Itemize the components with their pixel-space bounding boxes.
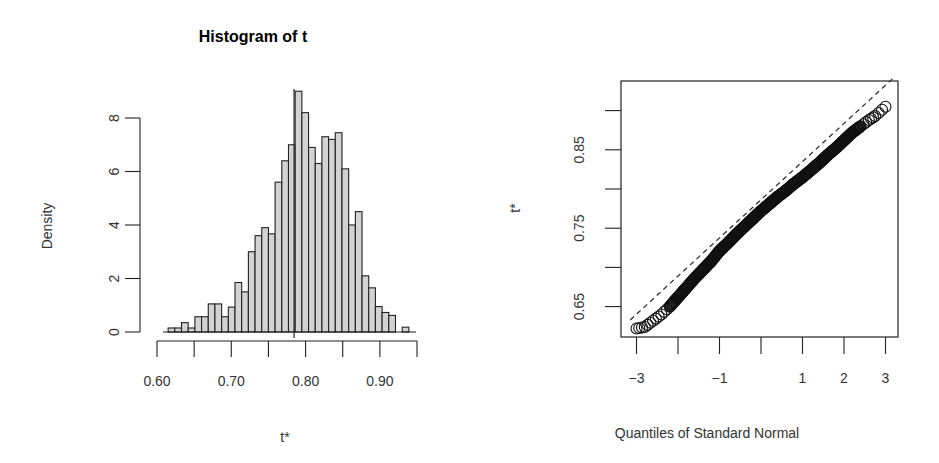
histogram-bar — [188, 328, 195, 332]
histogram-bar — [222, 317, 229, 332]
histogram-bar — [195, 317, 202, 332]
y-axis-label: Density — [39, 203, 55, 250]
histogram-bar — [335, 133, 342, 332]
figure: Histogram of t 0.600.700.800.90 02468 t*… — [0, 0, 939, 463]
x-axis-label: t* — [280, 429, 290, 445]
histogram-bar — [309, 147, 316, 332]
x-tick-label: −3 — [629, 370, 645, 386]
y-tick-label: 0.75 — [571, 214, 587, 241]
histogram-bar — [402, 327, 409, 332]
histogram-bar — [382, 312, 389, 332]
y-axis: 0.650.750.85 — [571, 111, 621, 321]
y-tick-label: 8 — [106, 114, 122, 122]
histogram-bar — [168, 328, 175, 332]
x-axis: −3−1123 — [629, 337, 890, 386]
histogram-bar — [182, 323, 189, 332]
x-tick-label: 1 — [799, 370, 807, 386]
histogram-bar — [228, 307, 235, 332]
x-axis-label: Quantiles of Standard Normal — [615, 425, 799, 441]
x-tick-label: −1 — [712, 370, 728, 386]
histogram-bar — [175, 328, 182, 332]
histogram-bar — [369, 288, 376, 332]
x-tick-label: 3 — [882, 370, 890, 386]
histogram-bar — [248, 252, 255, 332]
qq-point — [880, 101, 891, 112]
histogram-bar — [262, 228, 269, 332]
histogram-bar — [329, 139, 336, 332]
histogram-bar — [282, 161, 289, 332]
histogram-bar — [275, 182, 282, 332]
x-tick-label: 0.90 — [366, 373, 393, 389]
histogram-bar — [355, 212, 362, 332]
histogram-bar — [362, 276, 369, 332]
y-tick-label: 0 — [106, 328, 122, 336]
y-axis: 02468 — [106, 114, 140, 336]
x-tick-label: 0.60 — [143, 373, 170, 389]
histogram-bar — [302, 113, 309, 332]
histogram-panel: Histogram of t 0.600.700.800.90 02468 t*… — [39, 28, 417, 445]
histogram-bar — [268, 234, 275, 332]
histogram-bar — [375, 307, 382, 332]
histogram-bar — [235, 283, 242, 332]
histogram-bar — [295, 91, 302, 332]
y-tick-label: 0.65 — [571, 293, 587, 320]
x-tick-label: 2 — [840, 370, 848, 386]
histogram-bar — [215, 304, 222, 332]
x-tick-label: 0.80 — [292, 373, 319, 389]
y-tick-label: 2 — [106, 274, 122, 282]
qq-plot-panel: −3−1123 0.650.750.85 Quantiles of Standa… — [507, 78, 898, 441]
histogram-bar — [389, 315, 396, 332]
y-tick-label: 6 — [106, 167, 122, 175]
qq-points — [631, 101, 891, 334]
histogram-bar — [202, 317, 209, 332]
y-tick-label: 4 — [106, 221, 122, 229]
histogram-bar — [322, 137, 329, 332]
histogram-bars — [168, 91, 409, 332]
reference-line — [630, 78, 894, 320]
histogram-bar — [242, 292, 249, 332]
x-tick-label: 0.70 — [218, 373, 245, 389]
x-axis: 0.600.700.800.90 — [143, 341, 417, 389]
histogram-bar — [255, 236, 262, 332]
qq-point — [877, 104, 888, 115]
y-axis-label: t* — [507, 203, 523, 213]
histogram-bar — [342, 169, 349, 332]
y-tick-label: 0.85 — [571, 136, 587, 163]
histogram-bar — [208, 304, 215, 332]
histogram-bar — [315, 163, 322, 332]
histogram-title: Histogram of t — [199, 28, 308, 45]
histogram-bar — [349, 225, 356, 332]
